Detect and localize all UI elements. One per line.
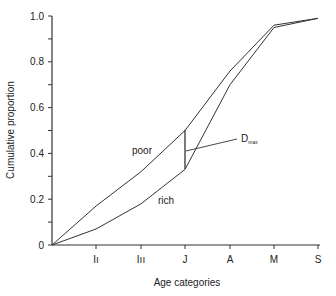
- chart: 00.20.40.60.81.0 IıIııJAMS poor rich Dma…: [0, 0, 336, 296]
- y-axis-title: Cumulative proportion: [5, 81, 16, 179]
- poor-label: poor: [132, 145, 153, 156]
- x-axis-tick-labels: IıIııJAMS: [93, 254, 321, 265]
- x-tick-label: Iıı: [137, 254, 145, 265]
- x-tick-label: S: [315, 254, 322, 265]
- y-tick-label: 0: [38, 240, 44, 251]
- y-tick-label: 1.0: [30, 11, 44, 22]
- y-tick-label: 0.2: [30, 194, 44, 205]
- x-axis-title: Age categories: [154, 277, 221, 288]
- dmax-pointer: [186, 139, 237, 151]
- y-tick-label: 0.6: [30, 102, 44, 113]
- x-tick-label: M: [270, 254, 278, 265]
- y-tick-label: 0.8: [30, 56, 44, 67]
- axes: [52, 16, 320, 245]
- y-tick-label: 0.4: [30, 148, 44, 159]
- x-tick-label: A: [227, 254, 234, 265]
- y-axis-tick-labels: 00.20.40.60.81.0: [30, 11, 44, 251]
- rich-label: rich: [158, 195, 174, 206]
- x-axis-ticks: [96, 245, 318, 249]
- dmax-label: Dmax: [241, 133, 258, 145]
- x-tick-label: Iı: [93, 254, 99, 265]
- x-tick-label: J: [183, 254, 188, 265]
